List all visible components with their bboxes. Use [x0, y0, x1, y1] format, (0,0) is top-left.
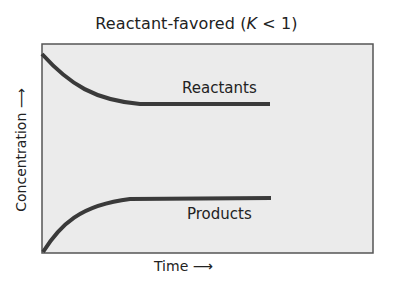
y-axis-label: Concentration ⟶ — [13, 88, 29, 212]
reactants-label: Reactants — [182, 79, 257, 97]
x-axis-label: Time ⟶ — [154, 258, 213, 274]
products-label: Products — [187, 205, 252, 223]
plot-area — [0, 0, 393, 293]
